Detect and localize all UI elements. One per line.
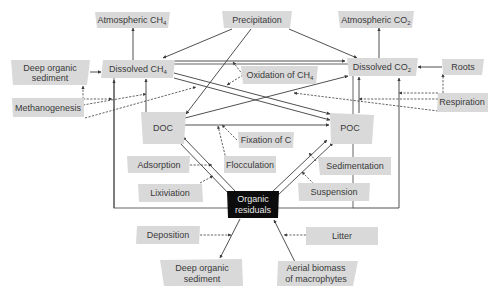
svg-text:POC: POC [340, 123, 360, 133]
svg-text:Fixation of C: Fixation of C [241, 135, 292, 145]
svg-text:Flocculation: Flocculation [226, 160, 274, 170]
svg-text:Dissolved CO2: Dissolved CO2 [353, 62, 412, 73]
svg-text:Respiration: Respiration [439, 97, 485, 107]
node-dissolved-co2: Dissolved CO2 [347, 58, 418, 76]
svg-text:Adsorption: Adsorption [137, 160, 180, 170]
node-aerial-biomass: Aerial biomass of macrophytes [277, 261, 358, 286]
node-respiration: Respiration [437, 93, 488, 112]
node-deposition: Deposition [136, 226, 200, 244]
svg-text:DOC: DOC [153, 123, 174, 133]
node-sedimentation: Sedimentation [318, 157, 391, 175]
node-doc: DOC [141, 112, 186, 144]
node-roots: Roots [442, 59, 484, 75]
node-lixiviation: Lixiviation [138, 184, 203, 202]
svg-text:of macrophytes: of macrophytes [285, 274, 347, 284]
svg-text:Dissolved CH4: Dissolved CH4 [109, 64, 168, 75]
node-poc: POC [330, 113, 374, 144]
carbon-cycle-diagram: Atmospheric CH4 Precipitation Atmospheri… [0, 0, 496, 297]
node-organic-residuals: Organic residuals [227, 191, 279, 218]
svg-text:Methanogenesis: Methanogenesis [15, 103, 82, 113]
svg-text:Deep organic: Deep organic [175, 263, 229, 273]
node-flocculation: Flocculation [224, 156, 276, 173]
svg-text:Roots: Roots [451, 62, 475, 72]
svg-text:Precipitation: Precipitation [232, 15, 282, 25]
svg-text:Deep organic: Deep organic [23, 63, 77, 73]
svg-text:sediment: sediment [32, 73, 69, 83]
node-deep-organic-sediment-top: Deep organic sediment [11, 60, 90, 85]
svg-text:sediment: sediment [184, 274, 221, 284]
svg-text:Atmospheric CO2: Atmospheric CO2 [341, 15, 411, 26]
svg-text:Aerial biomass: Aerial biomass [286, 263, 346, 273]
node-fixation-of-c: Fixation of C [238, 132, 294, 148]
node-methanogenesis: Methanogenesis [12, 98, 84, 117]
svg-text:Lixiviation: Lixiviation [150, 188, 190, 198]
node-precipitation: Precipitation [222, 11, 292, 28]
node-suspension: Suspension [298, 183, 370, 201]
node-oxidation-ch4: Oxidation of CH4 [241, 66, 318, 84]
node-atmospheric-ch4: Atmospheric CH4 [95, 12, 170, 28]
svg-text:Organic: Organic [237, 194, 269, 204]
node-deep-organic-sediment-bottom: Deep organic sediment [160, 259, 243, 286]
svg-text:residuals: residuals [235, 205, 272, 215]
node-dissolved-ch4: Dissolved CH4 [101, 60, 175, 78]
svg-text:Sedimentation: Sedimentation [326, 161, 384, 171]
svg-text:Suspension: Suspension [310, 187, 357, 197]
svg-text:Litter: Litter [332, 231, 352, 241]
node-atmospheric-co2: Atmospheric CO2 [338, 11, 414, 28]
svg-text:Atmospheric CH4: Atmospheric CH4 [98, 15, 168, 26]
svg-text:Oxidation of CH4: Oxidation of CH4 [247, 70, 315, 81]
node-adsorption: Adsorption [127, 156, 190, 173]
svg-text:Deposition: Deposition [147, 230, 190, 240]
node-litter: Litter [306, 227, 378, 245]
